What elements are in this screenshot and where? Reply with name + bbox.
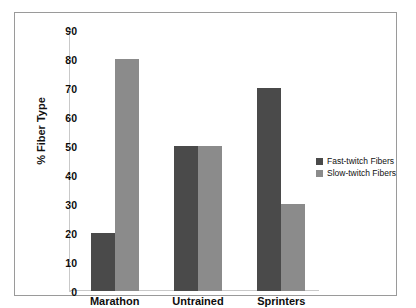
bar-group xyxy=(91,30,139,291)
bar xyxy=(198,146,222,291)
bar-chart-figure: % Fiber Type 0102030405060708090 Maratho… xyxy=(0,0,416,308)
legend-item: Fast-twitch Fibers xyxy=(316,156,408,166)
legend-label: Slow-twitch Fibers xyxy=(327,168,396,178)
bar xyxy=(91,233,115,291)
chart-legend: Fast-twitch FibersSlow-twitch Fibers xyxy=(316,156,408,180)
y-axis-tick-mark xyxy=(69,291,72,292)
plot-area: 0102030405060708090 MarathonUntrainedSpr… xyxy=(69,21,319,293)
bar-group xyxy=(257,30,305,291)
chart-frame: % Fiber Type 0102030405060708090 Maratho… xyxy=(14,12,397,296)
legend-swatch-icon xyxy=(316,158,323,165)
bar xyxy=(174,146,198,291)
bar-group xyxy=(174,30,222,291)
legend-swatch-icon xyxy=(316,170,323,177)
y-axis-title: % Fiber Type xyxy=(35,61,47,201)
bar xyxy=(281,204,305,291)
bar xyxy=(115,59,139,291)
x-axis-category-label: Sprinters xyxy=(221,295,341,307)
legend-item: Slow-twitch Fibers xyxy=(316,168,408,178)
legend-label: Fast-twitch Fibers xyxy=(327,156,394,166)
bar-series-container xyxy=(69,30,319,291)
bar xyxy=(257,88,281,291)
